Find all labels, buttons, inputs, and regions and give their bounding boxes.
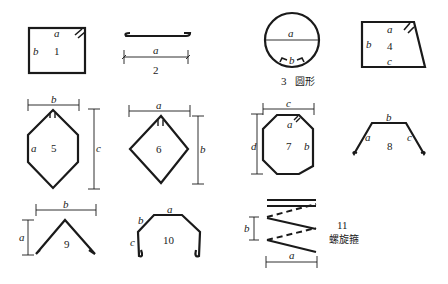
label-b: b: [63, 198, 69, 210]
shape-caption: 螺旋箍: [329, 233, 359, 245]
shape-number: 1: [54, 45, 60, 57]
label-a: a: [19, 231, 25, 243]
shape-number: 6: [156, 143, 162, 155]
shape-4-trapezoid-stirrup: a b 4 c: [362, 22, 425, 67]
label-a: a: [54, 27, 60, 39]
label-c: c: [407, 131, 412, 143]
shape-number: 8: [387, 140, 393, 152]
label-b: b: [33, 45, 39, 57]
shape-3-circular-stirrup: a b 3 圆形: [265, 13, 319, 87]
shape-7-octagonal-stirrup: c d a 7 b: [251, 97, 314, 174]
label-b: b: [138, 214, 144, 226]
label-a: a: [153, 44, 159, 56]
shape-number: 9: [64, 238, 70, 250]
shape-9-v-shaped-bar: b a 9: [19, 198, 96, 255]
label-b: b: [244, 222, 250, 234]
diagram-svg: a b 1 a 2 a b 3 圆形 a b 4 c b: [0, 0, 448, 284]
rebar-shapes-diagram: a b 1 a 2 a b 3 圆形 a b 4 c b: [0, 0, 448, 284]
label-c: c: [387, 55, 392, 67]
label-a: a: [156, 99, 162, 111]
label-b: b: [386, 111, 392, 123]
shape-number: 4: [387, 40, 393, 52]
label-c: c: [130, 236, 135, 248]
label-a: a: [289, 249, 295, 261]
shape-11-spiral-stirrup: b a 11 螺旋箍: [244, 200, 359, 268]
label-b: b: [289, 54, 295, 66]
shape-number: 5: [51, 142, 57, 154]
shape-1-rectangular-stirrup: a b 1: [29, 27, 85, 73]
shape-number: 10: [163, 234, 175, 246]
label-b: b: [51, 93, 57, 105]
shape-6-diamond-stirrup: a b 6: [129, 99, 206, 184]
shape-2-straight-bar: a 2: [122, 33, 190, 76]
label-c: c: [286, 97, 291, 109]
shape-caption: 圆形: [295, 76, 315, 87]
label-a: a: [387, 23, 393, 35]
label-d: d: [251, 140, 257, 152]
shape-number: 3: [281, 75, 287, 87]
label-b: b: [366, 38, 372, 50]
label-a: a: [167, 203, 173, 215]
shape-5-hexagonal-stirrup: b c a 5: [28, 93, 101, 189]
label-c: c: [96, 142, 101, 154]
shape-10-open-u-bar: a b c 10: [130, 203, 200, 256]
shape-number: 2: [153, 64, 159, 76]
shape-number: 11: [337, 219, 348, 231]
shape-8-open-trapezoid-bar: b a 8 c: [353, 111, 424, 154]
label-a: a: [288, 27, 294, 39]
label-b: b: [304, 140, 310, 152]
label-a: a: [31, 142, 37, 154]
label-a: a: [287, 118, 293, 130]
label-b: b: [200, 143, 206, 155]
shape-number: 7: [286, 140, 292, 152]
label-a: a: [365, 131, 371, 143]
